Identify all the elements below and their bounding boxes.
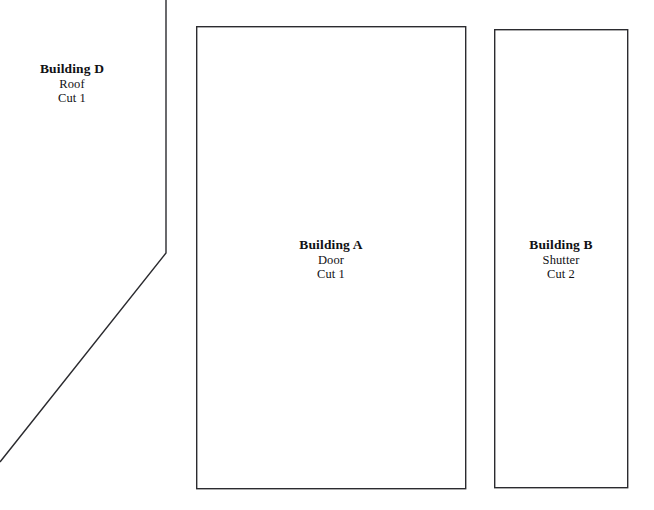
piece-part-building-d: Roof <box>40 77 104 92</box>
piece-label-building-d: Building D Roof Cut 1 <box>40 61 104 106</box>
piece-quantity-building-d: Cut 1 <box>40 91 104 106</box>
piece-quantity-building-b: Cut 2 <box>529 267 592 282</box>
pattern-sheet: Building D Roof Cut 1 Building A Door Cu… <box>0 0 654 510</box>
piece-quantity-building-a: Cut 1 <box>299 267 362 282</box>
piece-label-building-a: Building A Door Cut 1 <box>299 237 362 282</box>
piece-part-building-a: Door <box>299 253 362 268</box>
piece-title-building-b: Building B <box>529 237 592 253</box>
piece-title-building-a: Building A <box>299 237 362 253</box>
piece-label-building-b: Building B Shutter Cut 2 <box>529 237 592 282</box>
piece-part-building-b: Shutter <box>529 253 592 268</box>
piece-title-building-d: Building D <box>40 61 104 77</box>
